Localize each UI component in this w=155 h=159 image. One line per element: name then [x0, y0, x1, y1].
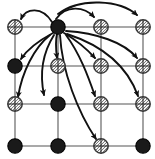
- lattice-nodes-group: [8, 20, 150, 153]
- lattice-node-r2c0[interactable]: [8, 97, 22, 111]
- lattice-node-r0c3[interactable]: [136, 20, 150, 34]
- lattice-node-r1c3[interactable]: [136, 59, 150, 73]
- arrow-r0c1-to-r0c2: [56, 9, 94, 19]
- lattice-node-r1c0[interactable]: [8, 59, 22, 73]
- lattice-node-r2c3[interactable]: [136, 97, 150, 111]
- node-circle-solid: [51, 139, 65, 153]
- node-circle-solid: [8, 139, 22, 153]
- lattice-diagram-figure: [0, 0, 155, 159]
- arrow-r0c1-to-r3c2: [60, 35, 96, 139]
- lattice-node-r1c1[interactable]: [51, 59, 65, 73]
- node-circle-solid: [136, 139, 150, 153]
- lattice-node-r0c2[interactable]: [94, 20, 108, 34]
- arrow-r0c1-to-r0c0: [21, 10, 52, 22]
- lattice-diagram-canvas: [0, 0, 155, 159]
- node-circle-solid: [8, 59, 22, 73]
- lattice-node-r0c0[interactable]: [8, 20, 22, 34]
- lattice-node-r2c1[interactable]: [51, 97, 65, 111]
- node-circle-solid: [51, 20, 65, 34]
- arrow-r0c1-to-r1c1: [56, 34, 57, 58]
- lattice-node-r2c2[interactable]: [94, 97, 108, 111]
- arrow-paths-group: [18, 2, 138, 139]
- lattice-node-r1c2[interactable]: [94, 59, 108, 73]
- lattice-node-r3c3[interactable]: [136, 139, 150, 153]
- lattice-node-r0c1-source[interactable]: [51, 20, 65, 34]
- lattice-node-r3c2[interactable]: [94, 139, 108, 153]
- lattice-node-r3c0[interactable]: [8, 139, 22, 153]
- arrow-r0c1-to-r1c2: [64, 33, 95, 58]
- lattice-node-r3c1[interactable]: [51, 139, 65, 153]
- node-circle-solid: [51, 97, 65, 111]
